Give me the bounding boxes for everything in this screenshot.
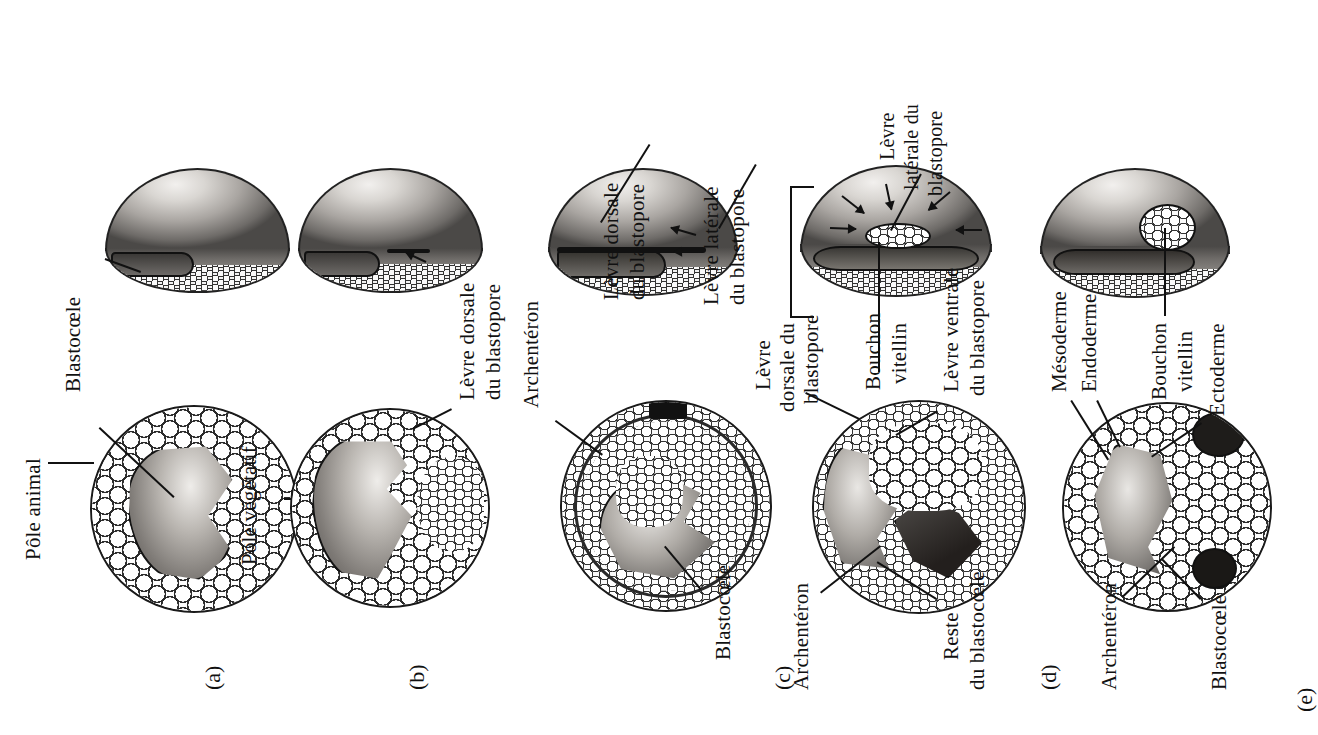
- animal-cap-dome: [105, 168, 290, 251]
- blastopore-c1: [649, 400, 686, 419]
- panel-label-d: (d): [1036, 664, 1062, 690]
- yolk-plug-c2: [865, 223, 930, 249]
- label-levre-dorsale-c2-line3: blastopore: [800, 315, 824, 404]
- panel-label-b: (b): [404, 664, 430, 690]
- label-levre-ventrale-line1: Lèvre ventrale: [940, 267, 964, 392]
- converging-arrow-5: [956, 229, 982, 231]
- label-mesoderme: Mésoderme: [1048, 291, 1072, 392]
- label-ectoderme: Ectoderme: [1206, 323, 1230, 416]
- label-bouchon-vitellin-d-line1: Bouchon: [1148, 323, 1172, 400]
- blastocoele-remnant-e: [1192, 548, 1237, 589]
- leader-bouchon-vitellin-d: [1164, 228, 1166, 316]
- yolk-plug-d: [1139, 204, 1196, 251]
- label-levre-laterale-c1-line1: Lèvre latérale: [700, 186, 724, 305]
- animal-cap-dome: [298, 168, 483, 251]
- label-blastocoele-c: Blastocœle: [712, 565, 736, 660]
- panel-label-a: (a): [200, 666, 226, 690]
- label-bouchon-vitellin-d-line2: vitellin: [1174, 331, 1198, 392]
- yolk-mass-c1: [616, 456, 683, 527]
- label-archenteron-d: Archentéron: [1098, 583, 1122, 690]
- panel-d-hemisphere: [1040, 168, 1230, 298]
- blastocoele-cavity: [304, 251, 380, 277]
- panel-c2-section: [812, 400, 1026, 614]
- leader-pole-animal: [48, 462, 94, 464]
- label-levre-ventrale-line2: du blastopore: [966, 280, 990, 396]
- label-pole-vegetatif: Pôle végétatif: [238, 446, 262, 565]
- label-endoderme: Endoderme: [1078, 293, 1102, 392]
- label-levre-dorsale-b-line2: du blastopore: [482, 284, 506, 400]
- label-bouchon-vitellin-c-line2: vitellin: [888, 323, 912, 384]
- panel-label-c: (c): [770, 666, 796, 690]
- label-levre-laterale-c2-line1: Lèvre: [876, 112, 898, 160]
- involuting-cells-b: [417, 457, 484, 551]
- label-bouchon-vitellin-c-line1: Bouchon: [862, 313, 886, 390]
- label-reste-blastocoele-line2: du blastocœle: [966, 571, 990, 690]
- panel-label-e: (e): [1292, 688, 1318, 712]
- panel-b-hemisphere: [298, 168, 483, 293]
- label-archenteron-b: Archentéron: [520, 301, 544, 408]
- archenteron-d: [1053, 249, 1195, 275]
- label-levre-dorsale-c1-line2: du blastopore: [626, 184, 650, 300]
- label-levre-dorsale-b-line1: Lèvre dorsale: [456, 283, 480, 400]
- leader-levre-dorsale-c2: [805, 392, 860, 420]
- label-levre-laterale-c2-line3: blastopore: [924, 111, 946, 196]
- panel-c1-section: [560, 400, 772, 612]
- label-blastocoele-e: Blastocœle: [1208, 595, 1232, 690]
- panel-a-hemisphere: [105, 168, 290, 293]
- panel-a-section: [90, 405, 298, 613]
- label-levre-dorsale-c2-line2: dorsale du: [776, 323, 800, 412]
- label-reste-blastocoele-line1: Reste: [940, 612, 964, 660]
- label-levre-dorsale-c2-line1: Lèvre: [752, 340, 776, 390]
- label-levre-dorsale-c1-line1: Lèvre dorsale: [600, 183, 624, 300]
- panel-c-bracket: [790, 186, 814, 318]
- animal-cap-dome: [1040, 168, 1230, 254]
- yolk-cells-c2: [869, 423, 982, 511]
- label-levre-laterale-c2-line2: latérale du: [900, 104, 922, 190]
- label-blastocoele-a: Blastocœle: [62, 297, 86, 392]
- panel-b-section: [290, 408, 490, 608]
- label-pole-animal: Pôle animal: [22, 458, 46, 560]
- label-levre-laterale-c1-line2: du blastopore: [726, 189, 750, 305]
